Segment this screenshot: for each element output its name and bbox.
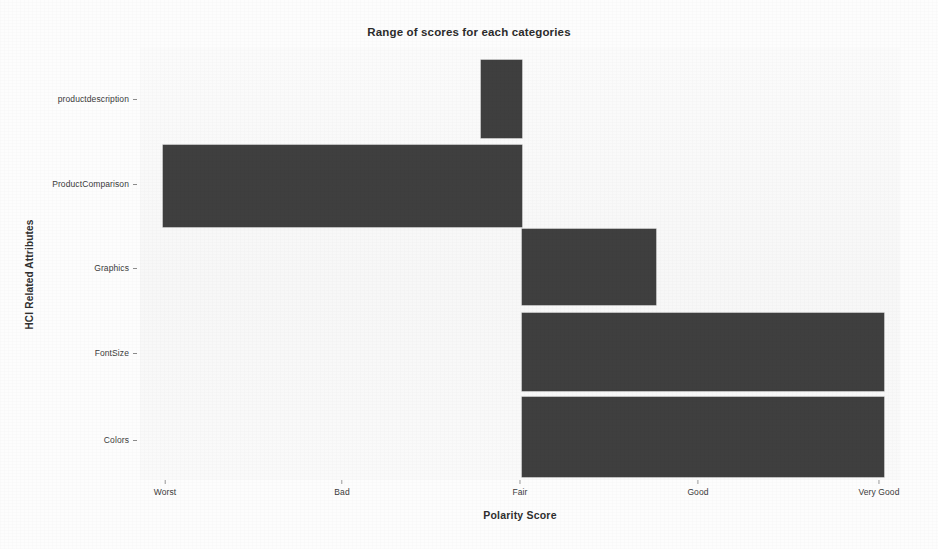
x-tick-label: Good xyxy=(687,487,708,497)
bar-colors xyxy=(522,397,884,477)
x-tick-label: Worst xyxy=(154,487,177,497)
bar-productdescription xyxy=(481,60,522,138)
x-tick-worst: Worst xyxy=(154,480,177,497)
x-tick-good: Good xyxy=(687,480,708,497)
x-tick-label: Very Good xyxy=(858,487,899,497)
bar-productcomparison xyxy=(163,145,522,227)
y-tick-dash-icon xyxy=(133,440,137,441)
y-tick-colors: Colors xyxy=(104,435,137,445)
plot-area xyxy=(140,48,900,480)
x-tick-bad: Bad xyxy=(334,480,349,497)
chart-title: Range of scores for each categories xyxy=(0,26,938,38)
x-tick-mark-icon xyxy=(878,480,879,484)
y-tick-label: Graphics xyxy=(94,263,129,273)
y-tick-label: ProductComparison xyxy=(52,179,129,189)
x-tick-mark-icon xyxy=(697,480,698,484)
y-tick-dash-icon xyxy=(133,353,137,354)
y-tick-label-group: productdescription ProductComparison Gra… xyxy=(0,0,137,549)
y-tick-fontsize: FontSize xyxy=(95,348,137,358)
y-tick-productdescription: productdescription xyxy=(58,94,137,104)
y-tick-label: FontSize xyxy=(95,348,129,358)
y-tick-productcomparison: ProductComparison xyxy=(52,179,137,189)
x-tick-label: Fair xyxy=(512,487,527,497)
y-tick-dash-icon xyxy=(133,184,137,185)
bar-fontsize xyxy=(522,313,884,391)
y-tick-dash-icon xyxy=(133,99,137,100)
x-tick-fair: Fair xyxy=(512,480,527,497)
bar-graphics xyxy=(522,229,656,305)
chart-figure: Range of scores for each categories HCI … xyxy=(0,0,938,549)
y-tick-dash-icon xyxy=(133,268,137,269)
x-tick-label: Bad xyxy=(334,487,349,497)
x-axis-title: Polarity Score xyxy=(140,509,900,521)
x-tick-mark-icon xyxy=(519,480,520,484)
x-tick-mark-icon xyxy=(342,480,343,484)
y-tick-label: productdescription xyxy=(58,94,129,104)
x-tick-very-good: Very Good xyxy=(858,480,899,497)
y-tick-label: Colors xyxy=(104,435,129,445)
x-tick-mark-icon xyxy=(164,480,165,484)
y-tick-graphics: Graphics xyxy=(94,263,137,273)
